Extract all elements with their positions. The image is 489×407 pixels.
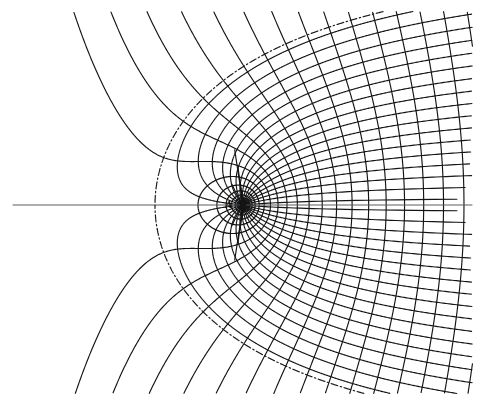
flow-net-figure: A	[0, 0, 489, 407]
source-point-label: A	[225, 199, 232, 210]
source-singularity-marker	[240, 200, 246, 211]
source-point-marker	[240, 200, 246, 211]
flow-net-canvas	[0, 0, 489, 407]
